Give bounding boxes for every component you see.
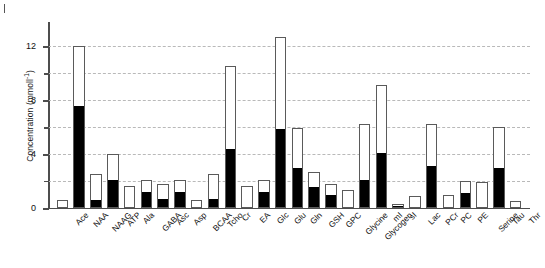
- bar-fill-atp: [108, 180, 118, 207]
- bar-fill-asc: [158, 199, 168, 207]
- y-tick-major-4: 4: [43, 154, 49, 156]
- y-tick-label-0: 0: [31, 203, 36, 213]
- y-tick-major-8: 8: [43, 100, 49, 102]
- bar-fill-pe: [461, 193, 471, 207]
- bar-ea: [241, 186, 253, 208]
- bar-ala: [124, 186, 136, 208]
- bar-asp: [174, 180, 186, 208]
- bar-fill-gaba: [142, 192, 152, 207]
- bar-fill-gpc: [326, 195, 336, 207]
- x-axis-label-cr: Cr: [240, 210, 253, 223]
- bar-fill-naa: [74, 106, 84, 207]
- x-axis-label-gpc: GPC: [343, 210, 363, 230]
- x-axis-label-ala: Ala: [140, 210, 156, 226]
- bar-fill-naag: [91, 200, 101, 207]
- y-tick-label-4: 4: [31, 149, 36, 159]
- y-tick-minor-10: [44, 73, 49, 74]
- gridline-10: [48, 73, 530, 74]
- bar-naa: [73, 46, 85, 208]
- x-axis-label-naa: NAA: [91, 210, 110, 229]
- bar-fill-glu: [276, 129, 286, 207]
- bar-fill-tau: [494, 168, 504, 207]
- y-axis-label-exponent: -1: [23, 73, 30, 79]
- bar-gpc: [325, 184, 337, 208]
- bar-fill-asp: [175, 192, 185, 207]
- x-axis-label-pcr: PCr: [443, 210, 460, 227]
- bar-fill-gln: [293, 168, 303, 207]
- y-tick-minor-6: [44, 127, 49, 128]
- bar-fill-si: [393, 206, 403, 207]
- bar-thr: [510, 201, 522, 208]
- x-axis-label-pe: PE: [475, 210, 490, 225]
- x-axis-label-asp: Asp: [191, 210, 208, 227]
- bar-cr: [225, 66, 237, 208]
- bar-fill-glc: [259, 192, 269, 207]
- bar-pcr: [426, 124, 438, 208]
- bar-fill-gsh: [309, 187, 319, 207]
- gridline-8: [48, 100, 530, 101]
- bar-atp: [107, 154, 119, 208]
- x-axis-label-ace: Ace: [74, 210, 91, 227]
- bar-asc: [157, 184, 169, 208]
- gridline-12: [48, 46, 530, 47]
- x-axis-label-thr: Thr: [526, 210, 542, 226]
- bar-fill-cr: [226, 149, 236, 207]
- bar-mi: [376, 85, 388, 208]
- bar-tcho: [208, 174, 220, 208]
- bar-lac: [409, 196, 421, 208]
- plot-area: 04812: [48, 22, 530, 208]
- bar-bcaa: [191, 200, 203, 208]
- x-axis-label-glu: Glu: [291, 210, 307, 226]
- bar-naag: [90, 174, 102, 208]
- gridline-6: [48, 127, 530, 128]
- bar-gsh: [308, 172, 320, 208]
- bar-fill-pcr: [427, 166, 437, 207]
- x-axis-label-lac: Lac: [426, 210, 443, 227]
- bar-glycine: [342, 190, 354, 208]
- gridline-2: [48, 181, 530, 182]
- bar-ace: [57, 200, 69, 208]
- bar-fill-mi: [377, 153, 387, 207]
- bar-fill-tcho: [209, 199, 219, 207]
- y-tick-minor-2: [44, 181, 49, 182]
- x-axis-label-pc: PC: [459, 210, 474, 225]
- gridline-4: [48, 154, 530, 155]
- bar-pe: [460, 181, 472, 208]
- bar-si: [392, 204, 404, 208]
- bar-pc: [443, 195, 455, 208]
- y-tick-major-12: 12: [43, 46, 49, 48]
- y-axis-label-close: ): [25, 70, 35, 73]
- x-axis-label-ea: EA: [257, 210, 272, 225]
- y-tick-label-12: 12: [26, 41, 36, 51]
- x-axis-label-glc: Glc: [274, 210, 290, 226]
- bar-tau: [493, 127, 505, 208]
- bar-fill-glycogen: [360, 180, 370, 207]
- bar-serine: [476, 182, 488, 208]
- bar-gaba: [141, 180, 153, 208]
- bar-glu: [275, 37, 287, 208]
- bar-glc: [258, 180, 270, 208]
- x-axis-label-gln: Gln: [308, 210, 324, 226]
- bar-gln: [292, 128, 304, 208]
- y-tick-label-8: 8: [31, 95, 36, 105]
- x-axis-label-gsh: GSH: [326, 210, 346, 230]
- bar-glycogen: [359, 124, 371, 208]
- x-axis-labels-group: AceNAANAAGATPAlaGABAAscAspBCAATchoCrEAGl…: [48, 210, 545, 268]
- panel-corner-mark: [4, 4, 5, 13]
